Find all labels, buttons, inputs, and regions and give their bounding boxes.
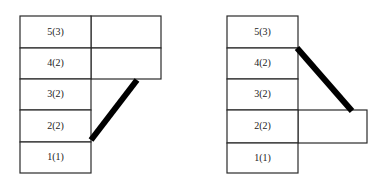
stack-cell-label: 3(2) bbox=[47, 88, 64, 100]
side-cell bbox=[91, 16, 161, 48]
stack-cell-label: 4(2) bbox=[254, 57, 271, 69]
stack-cell-label: 5(3) bbox=[47, 26, 64, 38]
side-cell bbox=[298, 110, 367, 143]
right-stack-diagram: 5(3)4(2)3(2)2(2)1(1) bbox=[227, 16, 367, 173]
stack-cell-label: 4(2) bbox=[47, 57, 64, 69]
stack-cell-label: 5(3) bbox=[254, 26, 271, 38]
stack-diagram-canvas: 5(3)4(2)3(2)2(2)1(1) 5(3)4(2)3(2)2(2)1(1… bbox=[0, 0, 386, 185]
stack-cell-label: 3(2) bbox=[254, 88, 271, 100]
stack-cell-label: 1(1) bbox=[254, 152, 271, 164]
stack-cell-label: 1(1) bbox=[47, 151, 64, 163]
stack-cell-label: 2(2) bbox=[254, 120, 271, 132]
stack-cell-label: 2(2) bbox=[47, 120, 64, 132]
diagonal-bar bbox=[297, 48, 352, 111]
side-cell bbox=[91, 48, 161, 79]
diagonal-bar bbox=[91, 80, 137, 140]
left-stack-diagram: 5(3)4(2)3(2)2(2)1(1) bbox=[20, 16, 161, 173]
